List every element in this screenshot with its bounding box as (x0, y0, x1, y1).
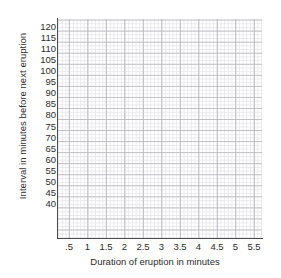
x-tick-label: 1 (85, 240, 90, 253)
y-tick-label: 40 (30, 199, 56, 209)
y-axis-tick-labels: 120115110105100959085807570656055504540 (30, 18, 56, 238)
y-tick-label: 70 (30, 133, 56, 143)
y-tick-label: 120 (30, 22, 56, 32)
x-tick-label: 1.5 (99, 240, 112, 253)
x-tick-label: 2.5 (136, 240, 149, 253)
x-tick-label: 2 (122, 240, 127, 253)
y-tick-label: 85 (30, 99, 56, 109)
blank-scatter-grid-chart: Interval in minutes before next eruption… (0, 0, 281, 278)
y-tick-label: 80 (30, 110, 56, 120)
y-axis-line (57, 18, 58, 239)
y-tick-label: 95 (30, 77, 56, 87)
x-tick-label: 4 (196, 240, 201, 253)
plot-area[interactable] (58, 19, 262, 238)
y-tick-label: 110 (30, 44, 56, 54)
major-gridlines (58, 19, 262, 238)
x-tick-label: .5 (65, 240, 73, 253)
y-tick-label: 90 (30, 88, 56, 98)
y-tick-label: 115 (30, 33, 56, 43)
y-tick-label: 45 (30, 188, 56, 198)
y-tick-label: 65 (30, 144, 56, 154)
x-axis-title: Duration of eruption in minutes (40, 255, 270, 268)
y-tick-label: 75 (30, 122, 56, 132)
x-tick-label: 3 (159, 240, 164, 253)
y-tick-label: 60 (30, 155, 56, 165)
x-axis-tick-labels: .511.522.533.544.555.5 (58, 240, 268, 253)
x-tick-label: 3.5 (173, 240, 186, 253)
x-tick-label: 5 (233, 240, 238, 253)
minor-gridlines (58, 19, 262, 238)
y-tick-label: 55 (30, 166, 56, 176)
x-tick-label: 4.5 (210, 240, 223, 253)
y-tick-label: 100 (30, 66, 56, 76)
x-tick-label: 5.5 (247, 240, 260, 253)
y-tick-label: 105 (30, 55, 56, 65)
y-tick-label: 50 (30, 177, 56, 187)
